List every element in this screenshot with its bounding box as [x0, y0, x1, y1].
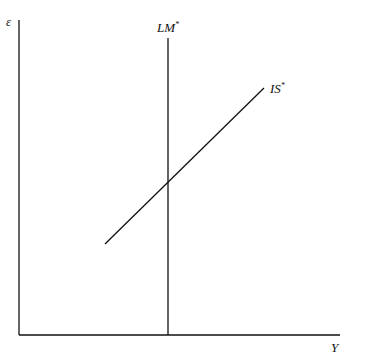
x-axis-label: Y: [331, 340, 340, 355]
y-axis-label: ε: [6, 14, 12, 29]
is-star-label: IS*: [269, 81, 285, 96]
lm-star-label: LM*: [156, 20, 179, 35]
is-lm-diagram: ε Y LM* IS*: [0, 0, 387, 357]
is-star-curve: [105, 88, 264, 244]
